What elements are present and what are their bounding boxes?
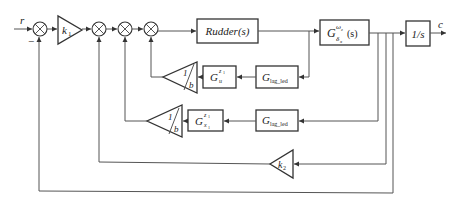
svg-text:b: b	[174, 124, 179, 134]
summing-junction-2	[92, 22, 106, 36]
rudder-block: Rudder(s)	[197, 19, 258, 43]
svg-text:lag_led: lag_led	[270, 121, 288, 127]
svg-text:G: G	[195, 115, 203, 127]
svg-text:u: u	[219, 78, 222, 84]
svg-text:1: 1	[208, 114, 210, 119]
svg-text:(s): (s)	[347, 28, 358, 40]
summing-junction-3	[118, 22, 132, 36]
svg-text:1: 1	[183, 68, 188, 78]
svg-text:z: z	[340, 27, 343, 32]
gain-inv-b-1: 1 b	[163, 62, 197, 93]
summing-junction-4	[144, 22, 158, 36]
svg-text:1/s: 1/s	[412, 28, 425, 40]
summing-junction-1	[33, 22, 47, 36]
svg-text:1: 1	[223, 70, 225, 75]
svg-text:G: G	[210, 71, 218, 83]
svg-text:b: b	[189, 80, 194, 90]
svg-text:1: 1	[68, 30, 72, 38]
svg-text:G: G	[262, 71, 270, 83]
minus-sign: −	[28, 35, 34, 47]
svg-text:1: 1	[168, 112, 173, 122]
gain-k2: k 2	[270, 150, 293, 178]
svg-text:lag_led: lag_led	[270, 78, 288, 84]
lag-led-block-2: G lag_led	[256, 110, 298, 131]
svg-text:2: 2	[283, 165, 286, 171]
filter-block-u: G z 1 u	[203, 66, 236, 88]
gain-inv-b-2: 1 b	[147, 105, 182, 137]
gain-k1: k 1	[58, 16, 82, 44]
plant-block: G ω z δ x (s)	[320, 20, 369, 45]
svg-text:G: G	[262, 114, 270, 126]
svg-text:1: 1	[208, 125, 210, 130]
input-label: r	[20, 14, 25, 26]
lag-led-block-1: G lag_led	[256, 66, 298, 88]
svg-text:x: x	[203, 122, 207, 128]
output-label: c	[438, 18, 443, 30]
filter-block-x1: G z 1 x 1	[188, 110, 223, 131]
integrator-block: 1/s	[406, 21, 430, 46]
svg-text:Rudder(s): Rudder(s)	[205, 25, 250, 38]
svg-text:G: G	[327, 26, 336, 40]
block-diagram: r − k 1 Rudder(s) G ω z δ x (s	[0, 0, 461, 204]
